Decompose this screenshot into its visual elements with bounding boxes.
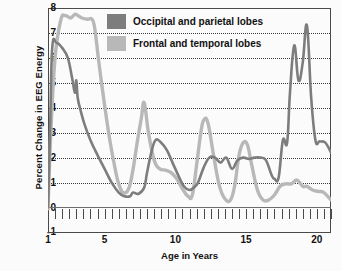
plot-frame-top [48, 8, 331, 9]
y-tick-label-2: 2 [34, 152, 56, 163]
x-tick [98, 209, 99, 219]
x-tick [105, 209, 106, 219]
x-tick [126, 209, 127, 219]
x-tick [317, 209, 318, 219]
x-axis-line [48, 232, 331, 233]
x-axis-title: Age in Years [48, 250, 331, 261]
x-tick [161, 209, 162, 219]
x-tick-label-1: 1 [36, 234, 60, 245]
y-tick-label-6: 6 [34, 52, 56, 63]
x-tick [112, 209, 113, 219]
x-tick [303, 209, 304, 219]
x-tick [260, 209, 261, 219]
y-tick-label-8: 8 [34, 2, 56, 13]
legend-item-occipital-parietal: Occipital and parietal lobes [107, 10, 307, 32]
x-tick [154, 209, 155, 219]
x-tick [246, 209, 247, 219]
x-tick [69, 209, 70, 219]
legend: Occipital and parietal lobes Frontal and… [107, 10, 307, 54]
gridline-1 [49, 183, 330, 184]
x-tick [83, 209, 84, 219]
x-tick-label-5: 5 [93, 234, 117, 245]
legend-swatch-occipital-parietal [107, 14, 126, 29]
x-tick [232, 209, 233, 219]
x-tick [197, 209, 198, 219]
x-tick-label-15: 15 [234, 234, 258, 245]
x-tick [55, 209, 56, 219]
legend-label-occipital-parietal: Occipital and parietal lobes [133, 16, 263, 27]
gridline-4 [49, 108, 330, 109]
x-tick [168, 209, 169, 219]
gridline-3 [49, 133, 330, 134]
x-tick [274, 209, 275, 219]
x-tick [324, 209, 325, 219]
x-tick [331, 209, 332, 219]
x-tick [119, 209, 120, 219]
x-tick [282, 209, 283, 219]
gridline-6 [49, 58, 330, 59]
x-tick [140, 209, 141, 219]
x-tick [182, 209, 183, 219]
x-tick [90, 209, 91, 219]
x-tick [267, 209, 268, 219]
x-tick [147, 209, 148, 219]
x-tick [289, 209, 290, 219]
x-tick [296, 209, 297, 219]
y-tick-label-7: 7 [34, 27, 56, 38]
gridline-5 [49, 83, 330, 84]
gridline-2 [49, 158, 330, 159]
plot-frame-left [48, 8, 49, 233]
chart-figure: Percent Change in EEG Energy Age in Year… [0, 0, 341, 271]
x-tick [175, 209, 176, 219]
x-tick [76, 209, 77, 219]
x-tick [48, 209, 49, 219]
legend-label-frontal-temporal: Frontal and temporal lobes [133, 38, 261, 49]
x-tick [190, 209, 191, 219]
x-tick [204, 209, 205, 219]
x-tick [225, 209, 226, 219]
legend-item-frontal-temporal: Frontal and temporal lobes [107, 32, 307, 54]
x-tick [239, 209, 240, 219]
y-tick-label-3: 3 [34, 127, 56, 138]
y-tick-label-4: 4 [34, 102, 56, 113]
x-tick [133, 209, 134, 219]
y-tick-label-5: 5 [34, 77, 56, 88]
x-tick-label-20: 20 [305, 234, 329, 245]
x-tick [62, 209, 63, 219]
zero-baseline [48, 207, 331, 208]
x-tick [218, 209, 219, 219]
plot-frame-right [330, 8, 331, 233]
legend-swatch-frontal-temporal [107, 36, 126, 51]
y-tick-label-1: 1 [34, 177, 56, 188]
x-tick-label-10: 10 [163, 234, 187, 245]
x-tick [310, 209, 311, 219]
x-tick [211, 209, 212, 219]
x-tick [253, 209, 254, 219]
